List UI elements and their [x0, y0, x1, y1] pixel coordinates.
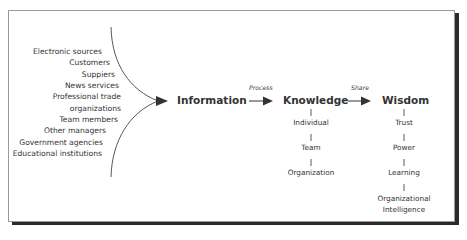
source-item: Professional trade [53, 91, 121, 102]
wisdom-level-power: Power [364, 143, 444, 152]
source-item: Other managers [44, 125, 106, 136]
wisdom-level-organizational: Organizational [364, 194, 444, 203]
wisdom-level-trust: Trust [364, 118, 444, 127]
source-item: Suppiers [82, 69, 115, 80]
transition-share-label: Share [351, 84, 369, 91]
source-item: News services [65, 80, 119, 91]
stage-information: Information [177, 94, 247, 106]
source-item: Government agencies [19, 137, 103, 148]
wisdom-level-learning: Learning [364, 168, 444, 177]
stage-knowledge: Knowledge [283, 94, 348, 106]
source-item: Customers [69, 57, 110, 68]
stage-wisdom: Wisdom [382, 94, 429, 106]
wisdom-level-intelligence: Intelligence [364, 205, 444, 214]
knowledge-level-team: Team [271, 143, 351, 152]
transition-process-label: Process [249, 84, 273, 91]
knowledge-level-individual: Individual [271, 118, 351, 127]
source-item: Educational institutions [13, 148, 102, 159]
knowledge-level-organization: Organization [271, 168, 351, 177]
source-item: organizations [70, 103, 121, 114]
source-item: Team members [59, 114, 118, 125]
source-item: Electronic sources [33, 46, 102, 57]
